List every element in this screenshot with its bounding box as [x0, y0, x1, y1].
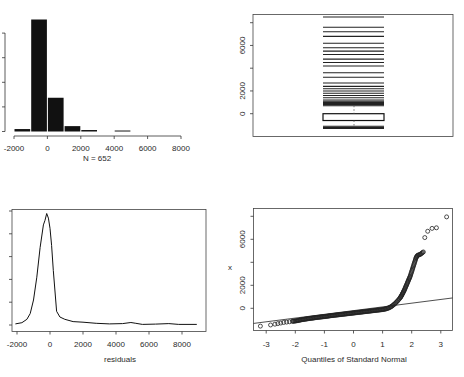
qq-point — [430, 226, 434, 230]
density-curve — [15, 214, 196, 325]
qq-points — [258, 215, 448, 328]
histogram-bar — [15, 129, 31, 131]
histogram-y-ticks — [2, 33, 5, 131]
histogram-panel: -200002000400060008000 N = 652 — [2, 20, 190, 164]
y-tick-label: 2000 — [238, 276, 247, 294]
x-tick-label: 0 — [45, 144, 50, 153]
x-tick-label: -2 — [292, 340, 300, 349]
qq-y-label: x — [228, 263, 232, 272]
boxplot-panel: 020006000 — [238, 15, 453, 137]
figure-canvas: -200002000400060008000 N = 652 020006000… — [0, 0, 464, 377]
density-x-label: residuals — [104, 355, 136, 364]
box-rect — [323, 114, 384, 121]
y-tick-label: 2000 — [238, 82, 247, 100]
qq-point — [434, 226, 438, 230]
qq-point — [423, 236, 427, 240]
x-tick-label: -3 — [263, 340, 271, 349]
x-tick-label: 2 — [409, 340, 414, 349]
qq-point — [426, 229, 430, 233]
x-tick-label: 3 — [439, 340, 444, 349]
boxplot-outlier-lines — [323, 17, 384, 128]
qq-point — [258, 324, 262, 328]
histogram-x-label: N = 652 — [83, 154, 112, 163]
qq-point — [445, 215, 449, 219]
histogram-bar — [48, 98, 64, 132]
x-tick-label: 8000 — [173, 340, 191, 349]
histogram-bar — [31, 20, 47, 132]
x-tick-label: 2000 — [74, 340, 92, 349]
qq-x-ticks: -3-2-10123 — [263, 331, 444, 350]
x-tick-label: 2000 — [72, 144, 90, 153]
y-tick-label: 6000 — [238, 230, 247, 248]
histogram-bar — [81, 130, 97, 131]
x-tick-label: 6000 — [140, 340, 158, 349]
y-tick-label: 6000 — [238, 36, 247, 54]
density-frame — [12, 210, 206, 332]
x-tick-label: 6000 — [139, 144, 157, 153]
density-y-ticks — [9, 211, 12, 325]
x-tick-label: 8000 — [172, 144, 190, 153]
qq-point — [269, 323, 273, 327]
boxplot-y-ticks: 020006000 — [238, 23, 253, 116]
qq-x-label: Quantiles of Standard Normal — [301, 355, 407, 364]
histogram-bar — [115, 131, 131, 132]
x-tick-label: 4000 — [107, 340, 125, 349]
x-tick-label: 0 — [48, 340, 53, 349]
x-tick-label: 0 — [351, 340, 356, 349]
y-tick-label: 0 — [238, 306, 247, 311]
x-tick-label: -2000 — [7, 340, 28, 349]
x-tick-label: 4000 — [105, 144, 123, 153]
histogram-bar — [65, 126, 81, 131]
qq-y-ticks: 020006000 — [238, 216, 254, 310]
x-tick-label: -2000 — [4, 144, 25, 153]
qq-plot-panel: 020006000 -3-2-10123 Quantiles of Standa… — [228, 209, 453, 365]
density-x-ticks: -200002000400060008000 — [7, 332, 192, 350]
x-tick-label: 1 — [380, 340, 385, 349]
histogram-bars — [15, 20, 131, 132]
x-tick-label: -1 — [321, 340, 329, 349]
boxplot-box — [323, 106, 384, 126]
y-tick-label: 0 — [238, 111, 247, 116]
density-panel: -200002000400060008000 residuals — [7, 210, 206, 365]
histogram-x-ticks: -200002000400060008000 — [4, 136, 191, 153]
